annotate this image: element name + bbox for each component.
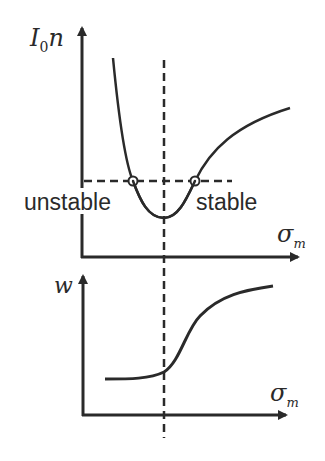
top-x-axis-label: σm [277,220,306,251]
bottom-y-axis-label: w [54,273,73,298]
unstable-label: unstable [24,189,111,215]
stability-diagram: I0n σm unstable stable w σm [0,0,325,461]
top-y-axis-label: I0n [29,24,64,55]
i0n-curve-bottom-segment [133,181,195,218]
stable-label: stable [196,189,257,215]
bottom-plot: w σm [54,273,299,416]
w-curve [105,286,273,379]
bottom-x-axis-label: σm [270,379,299,410]
